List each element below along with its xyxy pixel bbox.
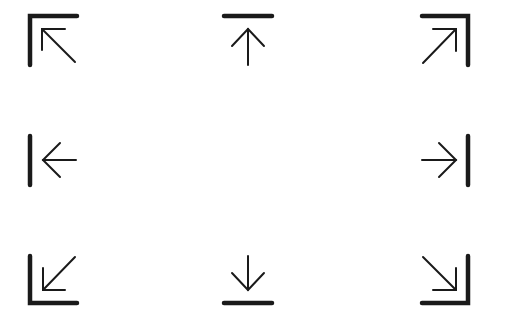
align-bottom-icon[interactable] <box>218 248 278 312</box>
align-bottom-right-icon[interactable] <box>415 248 477 312</box>
align-left-icon[interactable] <box>22 128 84 192</box>
align-right-icon[interactable] <box>415 128 477 192</box>
align-bottom-left-icon[interactable] <box>22 248 84 312</box>
align-top-left-icon[interactable] <box>22 8 84 72</box>
align-top-right-icon[interactable] <box>415 8 477 72</box>
alignment-icon-grid <box>0 0 507 322</box>
align-top-icon[interactable] <box>218 8 278 72</box>
